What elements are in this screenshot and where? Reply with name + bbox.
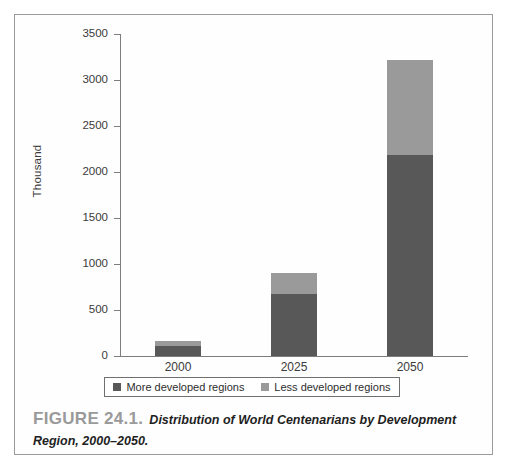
y-axis-tick-label-wrap: 1000 <box>46 264 108 265</box>
x-axis-tick-label: 2050 <box>370 360 450 374</box>
y-axis-tick <box>114 34 120 35</box>
y-axis-tick <box>114 126 120 127</box>
y-axis-tick-label: 3500 <box>48 28 108 40</box>
y-axis-tick <box>114 172 120 173</box>
y-axis-tick-label: 500 <box>48 304 108 316</box>
y-axis-tick-label: 0 <box>48 350 108 362</box>
bar-stack[interactable] <box>271 273 317 356</box>
y-axis-tick-label: 1500 <box>48 212 108 224</box>
bar-segment[interactable] <box>271 294 317 356</box>
legend-swatch-icon <box>113 383 121 391</box>
x-axis-line <box>120 356 468 357</box>
y-axis-tick <box>114 218 120 219</box>
y-axis-tick-label: 2000 <box>48 166 108 178</box>
y-axis-tick-label-wrap: 3500 <box>46 34 108 35</box>
y-axis-tick-label-wrap: 1500 <box>46 218 108 219</box>
bar-segment[interactable] <box>387 60 433 155</box>
chart-legend: More developed regionsLess developed reg… <box>104 377 400 397</box>
y-axis-tick-label-wrap: 0 <box>46 356 108 357</box>
figure-frame: 3500300025002000150010005000 Thousand 20… <box>14 14 493 455</box>
y-axis-tick <box>114 356 120 357</box>
y-axis-tick-label: 1000 <box>48 258 108 270</box>
y-axis-tick-label-wrap: 500 <box>46 310 108 311</box>
y-axis-tick-label-wrap: 2500 <box>46 126 108 127</box>
y-axis-tick-label: 2500 <box>48 120 108 132</box>
legend-item-label: Less developed regions <box>274 381 390 393</box>
figure-caption-label: FIGURE 24.1. <box>33 409 143 428</box>
y-axis-line <box>120 34 121 357</box>
legend-item-label: More developed regions <box>126 381 244 393</box>
figure-caption: FIGURE 24.1.Distribution of World Centen… <box>33 407 483 450</box>
y-axis-tick <box>114 310 120 311</box>
bar-segment[interactable] <box>155 346 201 356</box>
x-axis-tick-label: 2000 <box>138 360 218 374</box>
x-axis-tick-label: 2025 <box>254 360 334 374</box>
legend-item[interactable]: Less developed regions <box>261 381 390 393</box>
bar-segment[interactable] <box>387 155 433 356</box>
chart-plot-area: 3500300025002000150010005000 Thousand 20… <box>15 15 494 363</box>
y-axis-title: Thousand <box>31 101 43 241</box>
y-axis-tick <box>114 80 120 81</box>
y-axis-tick-label-wrap: 2000 <box>46 172 108 173</box>
bar-segment[interactable] <box>271 273 317 294</box>
bar-stack[interactable] <box>155 341 201 356</box>
y-axis-tick-label: 3000 <box>48 74 108 86</box>
y-axis-tick <box>114 264 120 265</box>
legend-swatch-icon <box>261 383 269 391</box>
y-axis-tick-label-wrap: 3000 <box>46 80 108 81</box>
legend-item[interactable]: More developed regions <box>113 381 244 393</box>
bar-stack[interactable] <box>387 60 433 356</box>
